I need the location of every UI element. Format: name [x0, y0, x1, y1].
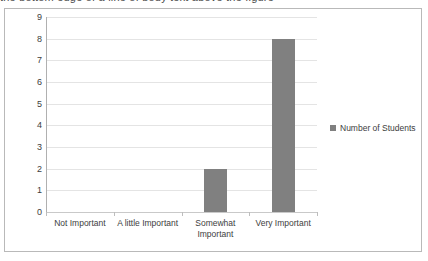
y-tick-label-3: 3 [22, 143, 42, 152]
y-tick-label-9: 9 [22, 13, 42, 22]
clipped-body-text-above-figure: the bottom edge of a line of body text a… [0, 0, 428, 3]
y-tick-label-2: 2 [22, 165, 42, 174]
plot-area [46, 17, 317, 212]
x-tick-1 [114, 212, 115, 216]
x-axis-tick-marks [46, 212, 318, 217]
gridline-y-9 [46, 17, 317, 18]
x-category-label-2: SomewhatImportant [182, 218, 250, 240]
y-tick-label-6: 6 [22, 78, 42, 87]
y-axis-tick-labels: 0123456789 [16, 17, 42, 212]
bar-3 [272, 39, 295, 212]
x-axis-category-labels: Not ImportantA little ImportantSomewhatI… [46, 218, 318, 252]
x-category-label-0: Not Important [46, 218, 114, 229]
legend-square-marker-icon [330, 125, 336, 131]
y-tick-label-4: 4 [22, 121, 42, 130]
y-tick-label-5: 5 [22, 100, 42, 109]
y-tick-label-8: 8 [22, 35, 42, 44]
x-tick-2 [182, 212, 183, 216]
y-axis-line [46, 17, 47, 213]
legend-series-label: Number of Students [340, 124, 416, 133]
chart-legend: Number of Students [330, 124, 416, 133]
x-tick-0 [46, 212, 47, 216]
x-tick-4 [317, 212, 318, 216]
x-category-label-3: Very Important [249, 218, 317, 229]
y-tick-label-0: 0 [22, 208, 42, 217]
x-category-label-1: A little Important [114, 218, 182, 229]
y-tick-label-7: 7 [22, 56, 42, 65]
y-tick-label-1: 1 [22, 186, 42, 195]
x-tick-3 [249, 212, 250, 216]
chart-figure-frame: 0123456789 Not ImportantA little Importa… [4, 8, 422, 252]
bar-2 [204, 169, 227, 212]
